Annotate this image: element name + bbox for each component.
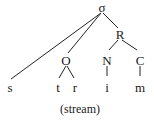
segment-m: m	[135, 80, 145, 95]
node-syllable: σ	[98, 0, 105, 15]
segment-r: r	[73, 80, 78, 95]
syllable-tree-diagram: σ R O N C s t r i m (stream)	[0, 0, 154, 123]
edge-sigma-rhyme	[103, 13, 118, 28]
node-coda: C	[136, 53, 145, 68]
segment-i: i	[105, 80, 109, 95]
segment-s: s	[7, 80, 12, 95]
node-nucleus: N	[102, 53, 112, 68]
segment-t: t	[56, 80, 60, 95]
caption: (stream)	[60, 102, 100, 116]
edge-sigma-s	[11, 13, 101, 79]
node-onset: O	[61, 53, 70, 68]
node-rhyme: R	[116, 27, 125, 42]
